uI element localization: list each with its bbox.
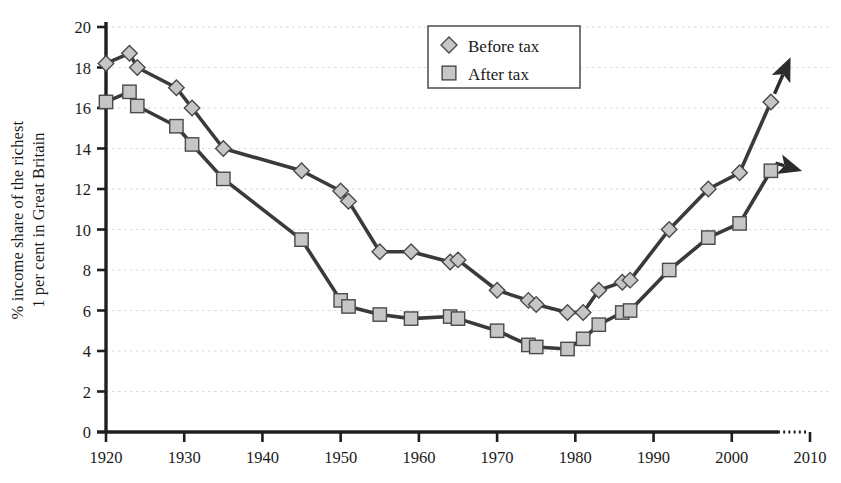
data-point-marker — [451, 312, 464, 325]
chart-legend: Before taxAfter tax — [428, 26, 580, 88]
y-tick-label: 12 — [75, 180, 92, 199]
data-point-marker — [623, 304, 636, 317]
chart-canvas: 1920193019401950196019701980199020002010… — [0, 0, 841, 483]
y-tick-label: 8 — [83, 261, 91, 280]
data-point-marker — [342, 300, 355, 313]
y-tick-label: 2 — [83, 383, 91, 402]
y-tick-label: 4 — [83, 342, 91, 361]
x-tick-label: 1970 — [481, 448, 514, 467]
data-point-marker — [170, 120, 183, 133]
data-point-marker — [560, 305, 576, 321]
x-tick-label: 2010 — [794, 448, 827, 467]
data-point-marker — [99, 95, 112, 108]
y-tick-label: 20 — [75, 18, 92, 37]
income-share-line-chart: % income share of the richest 1 per cent… — [0, 0, 841, 483]
data-point-marker — [490, 324, 503, 337]
data-series-layer — [98, 46, 784, 356]
series-trend-arrow — [775, 74, 783, 93]
data-point-marker — [123, 85, 136, 98]
data-point-marker — [576, 332, 589, 345]
y-tick-label: 6 — [83, 302, 91, 321]
series-after-tax — [99, 85, 784, 356]
legend-label: Before tax — [468, 37, 540, 56]
data-point-marker — [592, 318, 605, 331]
legend-label: After tax — [468, 65, 529, 84]
data-point-marker — [561, 342, 574, 355]
x-tick-label: 1940 — [246, 448, 279, 467]
y-tick-label: 0 — [83, 423, 91, 442]
data-point-marker — [131, 99, 144, 112]
data-point-marker — [404, 312, 417, 325]
x-axis-ticks: 1920193019401950196019701980199020002010 — [90, 432, 827, 467]
data-point-marker — [294, 163, 310, 179]
x-tick-label: 1920 — [90, 448, 123, 467]
y-tick-label: 18 — [75, 59, 92, 78]
data-point-marker — [530, 340, 543, 353]
data-point-marker — [98, 56, 114, 71]
data-point-marker — [122, 46, 137, 62]
data-point-marker — [185, 138, 198, 151]
data-point-marker — [733, 217, 746, 230]
y-tick-label: 10 — [75, 221, 92, 240]
data-point-marker — [373, 308, 386, 321]
x-tick-label: 1950 — [324, 448, 357, 467]
data-point-marker — [732, 165, 748, 181]
x-tick-label: 1980 — [559, 448, 592, 467]
data-point-marker — [403, 244, 419, 260]
x-tick-label: 1930 — [168, 448, 201, 467]
x-tick-label: 1960 — [402, 448, 435, 467]
x-tick-label: 2000 — [715, 448, 748, 467]
data-point-marker — [295, 233, 308, 246]
y-axis-ticks: 02468101214161820 — [75, 18, 107, 442]
y-tick-label: 14 — [75, 140, 92, 159]
data-point-marker — [217, 172, 230, 185]
data-point-marker — [663, 263, 676, 276]
data-point-marker — [130, 60, 146, 76]
y-tick-label: 16 — [75, 99, 92, 118]
data-point-marker — [763, 94, 779, 110]
data-point-marker — [442, 66, 456, 80]
x-tick-label: 1990 — [637, 448, 670, 467]
data-point-marker — [702, 231, 715, 244]
data-point-marker — [764, 164, 777, 177]
